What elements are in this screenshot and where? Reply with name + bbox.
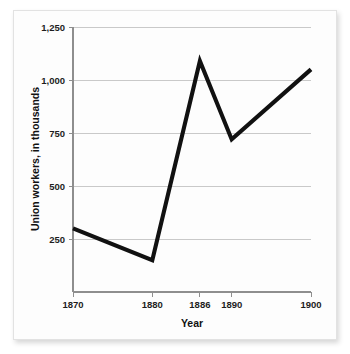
xtick-label-1890: 1890 bbox=[221, 299, 242, 310]
x-axis-title: Year bbox=[181, 317, 203, 329]
xtick-label-1880: 1880 bbox=[142, 299, 163, 310]
ytick-label-750: 750 bbox=[49, 128, 65, 139]
y-axis-title: Union workers, in thousands bbox=[29, 87, 41, 231]
data-series-union-workers bbox=[73, 61, 311, 260]
line-chart: 1,250 1,000 750 500 250 1870 1880 1886 1… bbox=[14, 11, 338, 341]
figure-card: 1,250 1,000 750 500 250 1870 1880 1886 1… bbox=[13, 10, 337, 340]
ytick-label-250: 250 bbox=[49, 234, 65, 245]
ytick-label-500: 500 bbox=[49, 181, 65, 192]
page-root: 1,250 1,000 750 500 250 1870 1880 1886 1… bbox=[0, 0, 350, 354]
ytick-label-1000: 1,000 bbox=[41, 75, 65, 86]
ytick-label-1250: 1,250 bbox=[41, 22, 65, 33]
chart-canvas: 1,250 1,000 750 500 250 1870 1880 1886 1… bbox=[14, 11, 338, 341]
xtick-label-1870: 1870 bbox=[62, 299, 83, 310]
xtick-label-1900: 1900 bbox=[300, 299, 321, 310]
xtick-label-1886: 1886 bbox=[189, 299, 210, 310]
